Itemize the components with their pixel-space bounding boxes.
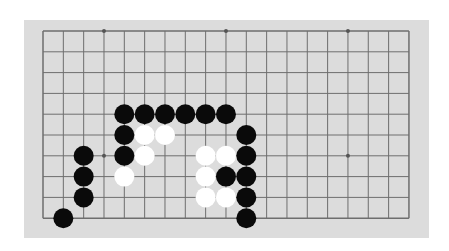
star-point	[102, 154, 106, 158]
black-stone[interactable]	[135, 104, 155, 124]
black-stone[interactable]	[53, 208, 73, 228]
star-point	[346, 29, 350, 33]
black-stone[interactable]	[74, 187, 94, 207]
star-point	[224, 29, 228, 33]
black-stone[interactable]	[114, 146, 134, 166]
black-stone[interactable]	[175, 104, 195, 124]
black-stone[interactable]	[216, 167, 236, 187]
white-stone[interactable]	[216, 187, 236, 207]
white-stone[interactable]	[196, 146, 216, 166]
white-stone[interactable]	[114, 167, 134, 187]
star-point	[346, 154, 350, 158]
white-stone[interactable]	[135, 146, 155, 166]
black-stone[interactable]	[236, 187, 256, 207]
star-point	[102, 29, 106, 33]
black-stone[interactable]	[236, 208, 256, 228]
white-stone[interactable]	[196, 187, 216, 207]
white-stone[interactable]	[155, 125, 175, 145]
black-stone[interactable]	[236, 125, 256, 145]
go-board[interactable]	[24, 20, 429, 238]
black-stone[interactable]	[216, 104, 236, 124]
black-stone[interactable]	[236, 167, 256, 187]
black-stone[interactable]	[114, 104, 134, 124]
black-stone[interactable]	[196, 104, 216, 124]
white-stone[interactable]	[196, 167, 216, 187]
black-stone[interactable]	[74, 167, 94, 187]
black-stone[interactable]	[114, 125, 134, 145]
black-stone[interactable]	[74, 146, 94, 166]
black-stone[interactable]	[236, 146, 256, 166]
board-grid[interactable]	[24, 20, 429, 238]
white-stone[interactable]	[216, 146, 236, 166]
white-stone[interactable]	[135, 125, 155, 145]
black-stone[interactable]	[155, 104, 175, 124]
